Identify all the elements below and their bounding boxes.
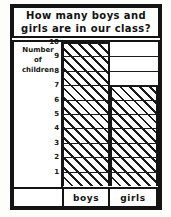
gridline-8 xyxy=(62,71,158,72)
x-label-girls: girls xyxy=(110,189,158,206)
y-tick-4: 4 xyxy=(54,124,59,132)
y-tick-10: 10 xyxy=(49,38,59,46)
gridline-5 xyxy=(62,114,158,115)
x-label-boys: boys xyxy=(62,189,110,206)
y-tick-3: 3 xyxy=(54,139,59,147)
chart-title-box: How many boys and girls are in our class… xyxy=(12,6,160,38)
gridline-7 xyxy=(62,85,158,86)
y-tick-7: 7 xyxy=(54,81,59,89)
y-tick-1: 1 xyxy=(54,168,59,176)
gridline-3 xyxy=(62,143,158,144)
gridline-4 xyxy=(62,128,158,129)
y-tick-8: 8 xyxy=(54,67,59,75)
gridline-9 xyxy=(62,56,158,57)
y-tick-6: 6 xyxy=(54,96,59,104)
chart-title-line-2: girls are in our class? xyxy=(21,22,151,35)
y-axis-tick-labels: 10 9 8 7 6 5 4 3 2 1 xyxy=(40,42,60,186)
gridline-1 xyxy=(62,172,158,173)
gridline-2 xyxy=(62,157,158,158)
bars-region xyxy=(62,42,158,186)
y-tick-2: 2 xyxy=(54,153,59,161)
chart-plot-area: Number of children 10 9 8 7 6 5 4 3 2 1 … xyxy=(12,40,160,208)
gridline-6 xyxy=(62,100,158,101)
y-tick-9: 9 xyxy=(54,52,59,60)
chart-title-line-1: How many boys and xyxy=(26,9,146,22)
worksheet: How many boys and girls are in our class… xyxy=(0,0,171,217)
x-axis-label-strip: boys girls xyxy=(14,187,158,206)
y-tick-5: 5 xyxy=(54,110,59,118)
